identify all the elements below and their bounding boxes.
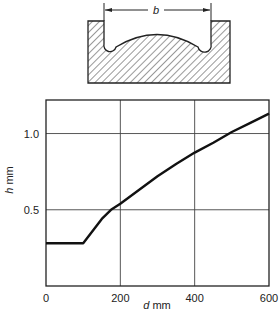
y-tick-label: 1.0 — [24, 128, 39, 140]
x-tick-label: 0 — [43, 292, 49, 304]
figure: b 0200400600 0.51.0 dmm hmm — [0, 0, 280, 315]
x-tick-label: 600 — [260, 292, 278, 304]
y-tick-label: 0.5 — [24, 204, 39, 216]
arrowhead-left — [105, 8, 112, 12]
chart: 0200400600 0.51.0 dmm hmm — [3, 100, 278, 311]
y-tick-labels: 0.51.0 — [24, 128, 39, 216]
cross-section-body — [88, 21, 230, 83]
cross-section-diagram: b — [88, 3, 230, 83]
x-tick-label: 400 — [185, 292, 203, 304]
y-axis-label-var: h — [3, 188, 15, 194]
y-axis-label-unit: mm — [3, 166, 15, 184]
arrowhead-right — [203, 8, 210, 12]
x-tick-label: 200 — [111, 292, 129, 304]
y-axis-label: hmm — [3, 166, 15, 193]
x-axis-label: dmm — [143, 299, 170, 311]
dimension-label-b: b — [153, 4, 159, 16]
plot-frame — [46, 100, 269, 286]
grid — [46, 100, 269, 286]
x-axis-label-var: d — [143, 299, 150, 311]
x-axis-label-unit: mm — [152, 299, 170, 311]
